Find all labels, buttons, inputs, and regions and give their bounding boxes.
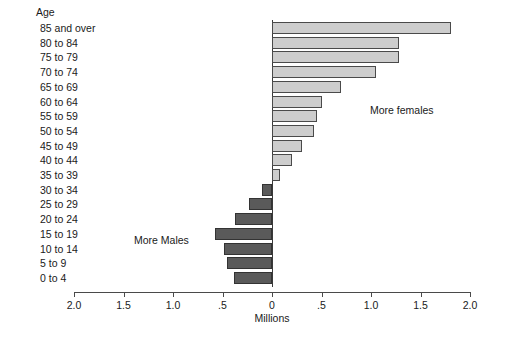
bar-65-to-69 xyxy=(272,81,341,93)
bar-70-to-74 xyxy=(272,66,376,78)
x-tick-label-5: .5 xyxy=(317,299,326,311)
annotation-more-males: More Males xyxy=(134,234,189,246)
population-pyramid-chart: Age 85 and over80 to 8475 to 7970 to 746… xyxy=(0,0,526,341)
x-tick-3 xyxy=(223,292,224,297)
x-tick-label-2: 1.0 xyxy=(166,299,181,311)
x-tick-2 xyxy=(173,292,174,297)
x-tick-label-4: 0 xyxy=(269,299,275,311)
bar-30-to-34 xyxy=(262,184,272,196)
annotation-more-females: More females xyxy=(370,104,434,116)
bar-5-to-9 xyxy=(227,257,272,269)
x-axis-title: Millions xyxy=(74,312,470,324)
bar-35-to-39 xyxy=(272,169,280,181)
bar-20-to-24 xyxy=(235,213,272,225)
bar-15-to-19 xyxy=(215,228,272,240)
age-axis-title: Age xyxy=(36,6,55,18)
x-tick-label-0: 2.0 xyxy=(67,299,82,311)
bar-80-to-84 xyxy=(272,37,399,49)
bar-45-to-49 xyxy=(272,140,302,152)
bar-85-and-over xyxy=(272,22,451,34)
x-tick-label-6: 1.0 xyxy=(364,299,379,311)
x-tick-label-3: .5 xyxy=(218,299,227,311)
bar-75-to-79 xyxy=(272,51,399,63)
x-tick-label-8: 2.0 xyxy=(463,299,478,311)
x-tick-8 xyxy=(470,292,471,297)
bar-25-to-29 xyxy=(249,198,272,210)
x-tick-5 xyxy=(322,292,323,297)
bar-10-to-14 xyxy=(224,243,272,255)
bar-55-to-59 xyxy=(272,110,317,122)
plot-area: More females More Males xyxy=(74,20,470,292)
x-tick-label-7: 1.5 xyxy=(413,299,428,311)
bar-0-to-4 xyxy=(234,272,272,284)
x-tick-6 xyxy=(371,292,372,297)
bar-40-to-44 xyxy=(272,154,292,166)
x-tick-4 xyxy=(272,292,273,297)
bar-50-to-54 xyxy=(272,125,314,137)
x-tick-1 xyxy=(124,292,125,297)
bar-60-to-64 xyxy=(272,96,322,108)
x-tick-0 xyxy=(74,292,75,297)
x-axis: 2.01.51.0.50.51.01.52.0 xyxy=(74,292,470,302)
x-tick-label-1: 1.5 xyxy=(116,299,131,311)
x-tick-7 xyxy=(421,292,422,297)
